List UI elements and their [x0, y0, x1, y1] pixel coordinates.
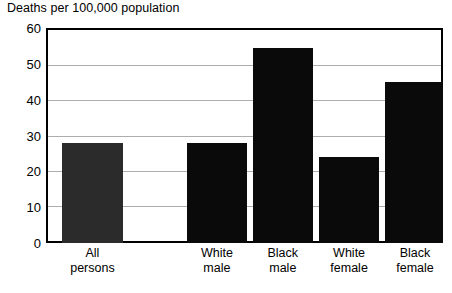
y-tick-label-20: 20: [11, 165, 41, 178]
x-tick-label-line1: White: [319, 246, 379, 261]
bar-black-female[interactable]: [385, 82, 443, 243]
x-tick-label-line2: male: [253, 261, 313, 276]
bar-chart: Deaths per 100,000 population 60 50 40 3…: [0, 0, 452, 293]
x-tick-label-black-male: Black male: [253, 246, 313, 276]
y-tick-label-30: 30: [11, 129, 41, 142]
x-tick-label-white-male: White male: [187, 246, 247, 276]
x-tick-label-line1: Black: [253, 246, 313, 261]
y-tick-label-60: 60: [11, 22, 41, 35]
chart-title: Deaths per 100,000 population: [7, 1, 179, 15]
bars-layer: [46, 28, 443, 243]
y-tick-label-40: 40: [11, 93, 41, 106]
y-axis: 60 50 40 30 20 10 0: [8, 28, 41, 243]
x-tick-label-line1: White: [187, 246, 247, 261]
x-axis: All persons White male Black male White …: [46, 246, 443, 291]
bar-white-male[interactable]: [187, 143, 247, 243]
x-tick-label-line2: persons: [62, 261, 123, 276]
x-tick-label-line1: Black: [385, 246, 445, 261]
y-tick-label-50: 50: [11, 57, 41, 70]
bar-white-female[interactable]: [319, 157, 379, 243]
x-tick-label-black-female: Black female: [385, 246, 445, 276]
x-tick-label-all-persons: All persons: [62, 246, 123, 276]
bar-all-persons[interactable]: [62, 143, 123, 243]
y-tick-label-0: 0: [11, 237, 41, 250]
x-tick-label-white-female: White female: [319, 246, 379, 276]
x-tick-label-line2: male: [187, 261, 247, 276]
x-tick-label-line1: All: [62, 246, 123, 261]
x-tick-label-line2: female: [319, 261, 379, 276]
y-tick-label-10: 10: [11, 201, 41, 214]
x-tick-label-line2: female: [385, 261, 445, 276]
bar-black-male[interactable]: [253, 48, 313, 243]
